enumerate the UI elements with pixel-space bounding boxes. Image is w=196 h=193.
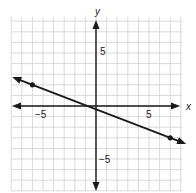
data-point (30, 82, 35, 87)
y-tick-label-5: 5 (100, 46, 106, 57)
x-axis-label: x (185, 101, 192, 112)
y-axis-down-arrow-icon (93, 182, 100, 191)
axis-labels: x y −5 5 5 −5 (35, 6, 192, 165)
y-axis-label: y (94, 6, 101, 17)
x-axis-right-arrow-icon (171, 103, 180, 110)
line-arrow-left-icon (12, 77, 22, 84)
data-point (168, 135, 173, 140)
x-tick-label-neg5: −5 (35, 109, 47, 120)
y-tick-label-neg5: −5 (99, 154, 111, 165)
x-axis-left-arrow-icon (12, 103, 21, 110)
line-arrow-right-icon (176, 137, 186, 144)
coordinate-plane: x y −5 5 5 −5 (0, 0, 196, 193)
axes (12, 20, 180, 191)
x-tick-label-5: 5 (146, 109, 152, 120)
